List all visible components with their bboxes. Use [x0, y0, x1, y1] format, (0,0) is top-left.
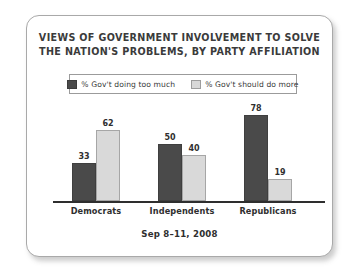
bar-column: 62 — [96, 104, 120, 201]
bar-column: 19 — [268, 104, 292, 201]
x-axis-label: Democrats — [53, 206, 139, 216]
bar — [244, 115, 268, 201]
title-line-1: VIEWS OF GOVERNMENT INVOLVEMENT TO SOLVE — [27, 31, 332, 45]
x-axis-label: Independents — [139, 206, 225, 216]
legend-item-label: % Gov't should do more — [205, 80, 298, 89]
bar-group: 7819 — [225, 104, 311, 201]
legend-item-gov-doing-too-much: % Gov't doing too much — [67, 80, 175, 89]
chart-card: VIEWS OF GOVERNMENT INVOLVEMENT TO SOLVE… — [26, 15, 333, 257]
bar-column: 78 — [244, 104, 268, 201]
bar-group: 5040 — [139, 104, 225, 201]
plot-area: 336250407819 — [53, 104, 311, 201]
bar-value-label: 62 — [102, 119, 113, 128]
chart-canvas: VIEWS OF GOVERNMENT INVOLVEMENT TO SOLVE… — [0, 0, 360, 275]
dark-swatch-icon — [67, 80, 77, 89]
bar-group-bars: 3362 — [53, 104, 139, 201]
bar — [158, 144, 182, 201]
x-axis-label: Republicans — [225, 206, 311, 216]
legend-item-label: % Gov't doing too much — [81, 80, 175, 89]
bar-value-label: 50 — [164, 133, 175, 142]
bar — [182, 155, 206, 201]
bar-value-label: 40 — [188, 144, 199, 153]
bar-column: 50 — [158, 104, 182, 201]
legend-item-gov-should-do-more: % Gov't should do more — [191, 80, 298, 89]
bar-column: 40 — [182, 104, 206, 201]
bar — [268, 179, 292, 201]
bar-group-bars: 5040 — [139, 104, 225, 201]
bar — [96, 130, 120, 201]
bar-group-bars: 7819 — [225, 104, 311, 201]
bar-value-label: 19 — [274, 168, 285, 177]
bar — [72, 163, 96, 201]
x-axis-line — [53, 201, 325, 203]
chart-legend: % Gov't doing too much % Gov't should do… — [69, 74, 297, 94]
bar-group: 3362 — [53, 104, 139, 201]
page-title: VIEWS OF GOVERNMENT INVOLVEMENT TO SOLVE… — [27, 31, 332, 58]
bar-value-label: 33 — [78, 152, 89, 161]
bar-value-label: 78 — [250, 104, 261, 113]
x-axis-categories: DemocratsIndependentsRepublicans — [53, 206, 311, 220]
title-line-2: THE NATION'S PROBLEMS, BY PARTY AFFILIAT… — [27, 45, 332, 59]
bar-column: 33 — [72, 104, 96, 201]
light-swatch-icon — [191, 80, 201, 89]
chart-footer-date: Sep 8–11, 2008 — [27, 229, 332, 239]
